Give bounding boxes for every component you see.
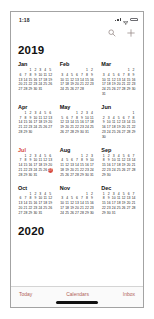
- month-name: Aug: [60, 147, 95, 153]
- month-nov[interactable]: Nov1234567891011121314151617181920212223…: [60, 185, 95, 216]
- day-cell-empty: [89, 130, 94, 135]
- next-year-title: 2020: [18, 225, 143, 237]
- tab-today[interactable]: Today: [19, 291, 32, 297]
- month-dec[interactable]: Dec1234567891011121314151617181920212223…: [101, 185, 136, 216]
- status-icons: [115, 11, 138, 29]
- month-day-grid: 1234567891011121314151617181920212223242…: [18, 111, 53, 135]
- month-aug[interactable]: Aug1234567891011121314151617181920212223…: [60, 147, 95, 178]
- month-name: Apr: [18, 104, 53, 110]
- month-name: Feb: [60, 61, 95, 67]
- month-name: Jun: [101, 104, 136, 110]
- month-feb[interactable]: Feb1234567891011121314151617181920212223…: [60, 61, 95, 92]
- battery-icon: [130, 18, 138, 22]
- day-cell: 31: [89, 173, 94, 178]
- phone-screenshot-frame: 1:18 2019 J: [10, 11, 144, 308]
- month-day-grid: 1234567891011121314151617181920212223242…: [60, 111, 95, 135]
- day-cell-empty: [89, 87, 94, 92]
- month-day-grid: 1234567891011121314151617181920212223242…: [60, 154, 95, 178]
- status-time: 1:18: [19, 17, 30, 23]
- cellular-signal-icon: [115, 18, 120, 21]
- month-day-grid: 1234567891011121314151617181920212223242…: [101, 154, 136, 178]
- day-cell-empty: [48, 87, 53, 92]
- day-cell-empty: [131, 135, 136, 140]
- month-jan[interactable]: Jan1234567891011121314151617181920212223…: [18, 61, 53, 92]
- month-name: Sep: [101, 147, 136, 153]
- add-event-button[interactable]: [127, 29, 135, 37]
- status-bar: 1:18: [11, 12, 143, 24]
- month-day-grid: 1234567891011121314151617181920212223242…: [18, 154, 53, 178]
- month-jun[interactable]: Jun1234567891011121314151617181920212223…: [101, 104, 136, 140]
- month-name: Jul: [18, 147, 53, 153]
- month-name: Mar: [101, 61, 136, 67]
- day-cell: 30: [89, 211, 94, 216]
- month-day-grid: 1234567891011121314151617181920212223242…: [101, 192, 136, 216]
- month-day-grid: 1234567891011121314151617181920212223242…: [101, 68, 136, 97]
- search-button[interactable]: [108, 29, 116, 37]
- month-name: May: [60, 104, 95, 110]
- month-apr[interactable]: Apr1234567891011121314151617181920212223…: [18, 104, 53, 135]
- year-title: 2019: [18, 44, 143, 56]
- home-indicator[interactable]: [56, 301, 98, 304]
- tab-inbox[interactable]: Inbox: [123, 291, 135, 297]
- month-name: Dec: [101, 185, 136, 191]
- day-cell-empty: [48, 130, 53, 135]
- day-cell-empty: [48, 173, 53, 178]
- month-oct[interactable]: Oct1234567891011121314151617181920212223…: [18, 185, 53, 216]
- day-cell-empty: [48, 211, 53, 216]
- day-cell-empty: [131, 211, 136, 216]
- month-day-grid: 1234567891011121314151617181920212223242…: [18, 192, 53, 216]
- month-day-grid: 1234567891011121314151617181920212223242…: [101, 111, 136, 140]
- day-cell-empty: [131, 92, 136, 97]
- month-name: Nov: [60, 185, 95, 191]
- month-sep[interactable]: Sep1234567891011121314151617181920212223…: [101, 147, 136, 178]
- day-cell-empty: [131, 173, 136, 178]
- month-jul[interactable]: Jul1234567891011121314151617181920212223…: [18, 147, 53, 178]
- month-may[interactable]: May1234567891011121314151617181920212223…: [60, 104, 95, 135]
- month-name: Oct: [18, 185, 53, 191]
- month-mar[interactable]: Mar1234567891011121314151617181920212223…: [101, 61, 136, 97]
- month-name: Jan: [18, 61, 53, 67]
- month-day-grid: 1234567891011121314151617181920212223242…: [60, 192, 95, 216]
- wifi-icon: [123, 11, 129, 29]
- month-day-grid: 1234567891011121314151617181920212223242…: [60, 68, 95, 92]
- tab-calendars[interactable]: Calendars: [66, 291, 89, 297]
- year-grid: Jan1234567891011121314151617181920212223…: [11, 61, 143, 216]
- month-day-grid: 1234567891011121314151617181920212223242…: [18, 68, 53, 92]
